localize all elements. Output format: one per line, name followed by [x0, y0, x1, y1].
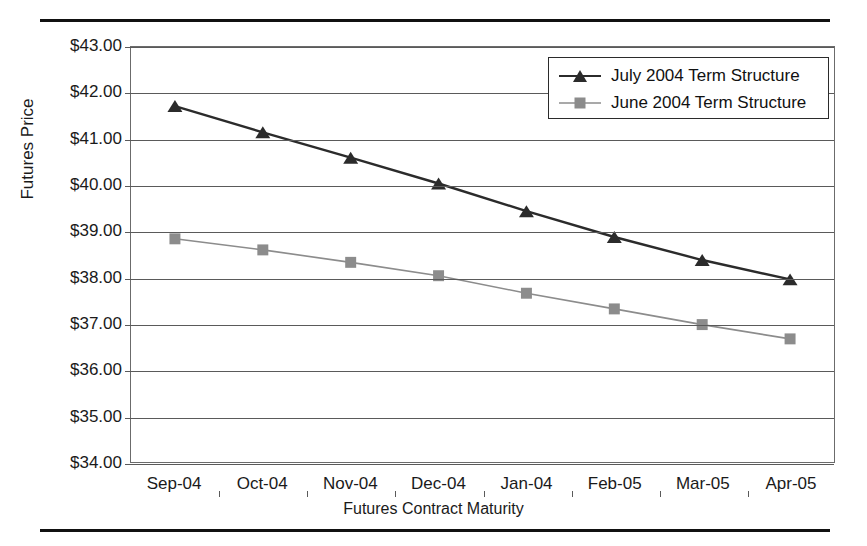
horizontal-rule-bottom: [40, 529, 830, 532]
y-axis-label: $43.00: [70, 37, 122, 54]
x-axis-label: Oct-04: [237, 474, 288, 494]
x-axis-label: Nov-04: [323, 474, 378, 494]
y-axis-label: $41.00: [70, 130, 122, 147]
square-marker: [785, 333, 796, 344]
y-axis-tick: [125, 140, 131, 141]
chart-area: Futures Price Futures Contract Maturity …: [0, 19, 867, 529]
y-axis-label: $38.00: [70, 269, 122, 286]
y-axis-label: $34.00: [70, 454, 122, 471]
y-gridline: [131, 418, 834, 419]
x-axis-tick: [307, 491, 308, 497]
triangle-marker: [557, 66, 603, 86]
legend-item[interactable]: June 2004 Term Structure: [549, 89, 828, 116]
y-axis-tick: [125, 47, 131, 48]
y-axis-tick: [125, 464, 131, 465]
y-axis-label: $36.00: [70, 361, 122, 378]
y-axis-tick: [125, 279, 131, 280]
x-axis-tick: [572, 491, 573, 497]
x-axis-label: Apr-05: [765, 474, 816, 494]
series-july: [167, 100, 797, 285]
y-axis-tick: [125, 186, 131, 187]
x-axis-tick: [395, 491, 396, 497]
y-gridline: [131, 140, 834, 141]
chart-legend: July 2004 Term StructureJune 2004 Term S…: [548, 57, 829, 119]
y-axis-label: $35.00: [70, 408, 122, 425]
y-gridline: [131, 279, 834, 280]
square-marker: [521, 288, 532, 299]
legend-label: July 2004 Term Structure: [603, 66, 800, 86]
triangle-marker: [167, 100, 182, 112]
y-axis-tick: [125, 371, 131, 372]
triangle-marker: [343, 152, 358, 164]
y-gridline: [131, 47, 834, 48]
square-marker: [345, 257, 356, 268]
x-axis-title: Futures Contract Maturity: [0, 500, 867, 518]
y-axis-label: $37.00: [70, 315, 122, 332]
figure-container: Futures Price Futures Contract Maturity …: [0, 0, 867, 546]
x-axis-tick: [660, 491, 661, 497]
triangle-marker: [255, 126, 270, 138]
y-gridline: [131, 186, 834, 187]
y-gridline: [131, 464, 834, 465]
y-axis-tick: [125, 325, 131, 326]
y-axis-label: $39.00: [70, 222, 122, 239]
y-gridline: [131, 325, 834, 326]
y-gridline: [131, 371, 834, 372]
legend-item[interactable]: July 2004 Term Structure: [549, 62, 828, 89]
y-axis-label: $42.00: [70, 83, 122, 100]
y-axis-tick: [125, 93, 131, 94]
series-june: [169, 233, 795, 344]
square-marker: [609, 303, 620, 314]
legend-label: June 2004 Term Structure: [603, 93, 806, 113]
triangle-marker: [431, 178, 446, 190]
clipped-caption: [40, 0, 830, 13]
square-marker: [169, 233, 180, 244]
y-axis-tick: [125, 232, 131, 233]
x-axis-tick: [219, 491, 220, 497]
y-axis-tick: [125, 418, 131, 419]
y-axis-title: Futures Price: [18, 59, 38, 239]
triangle-marker: [519, 205, 534, 217]
y-axis-label: $40.00: [70, 176, 122, 193]
x-axis-label: Feb-05: [588, 474, 642, 494]
square-marker: [557, 93, 603, 113]
square-marker: [257, 244, 268, 255]
x-axis-tick: [748, 491, 749, 497]
y-gridline: [131, 232, 834, 233]
x-axis-label: Sep-04: [147, 474, 202, 494]
x-axis-label: Jan-04: [501, 474, 553, 494]
x-axis-tick: [484, 491, 485, 497]
x-axis-label: Dec-04: [411, 474, 466, 494]
x-axis-label: Mar-05: [676, 474, 730, 494]
